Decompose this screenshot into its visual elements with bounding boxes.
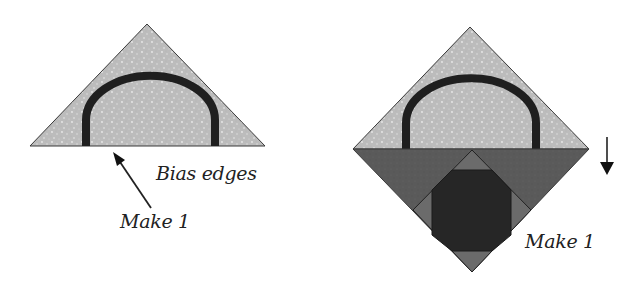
bias-edges-label: Bias edges (156, 162, 257, 184)
light-triangle-patch (30, 24, 265, 146)
light-triangle-patch (353, 27, 589, 149)
dark-octagon-center (432, 170, 511, 251)
arrow-up-left-icon (113, 152, 151, 208)
left-make-count-label: Make 1 (120, 210, 190, 232)
right-make-count-label: Make 1 (525, 230, 595, 252)
arrow-down-icon (600, 137, 614, 175)
